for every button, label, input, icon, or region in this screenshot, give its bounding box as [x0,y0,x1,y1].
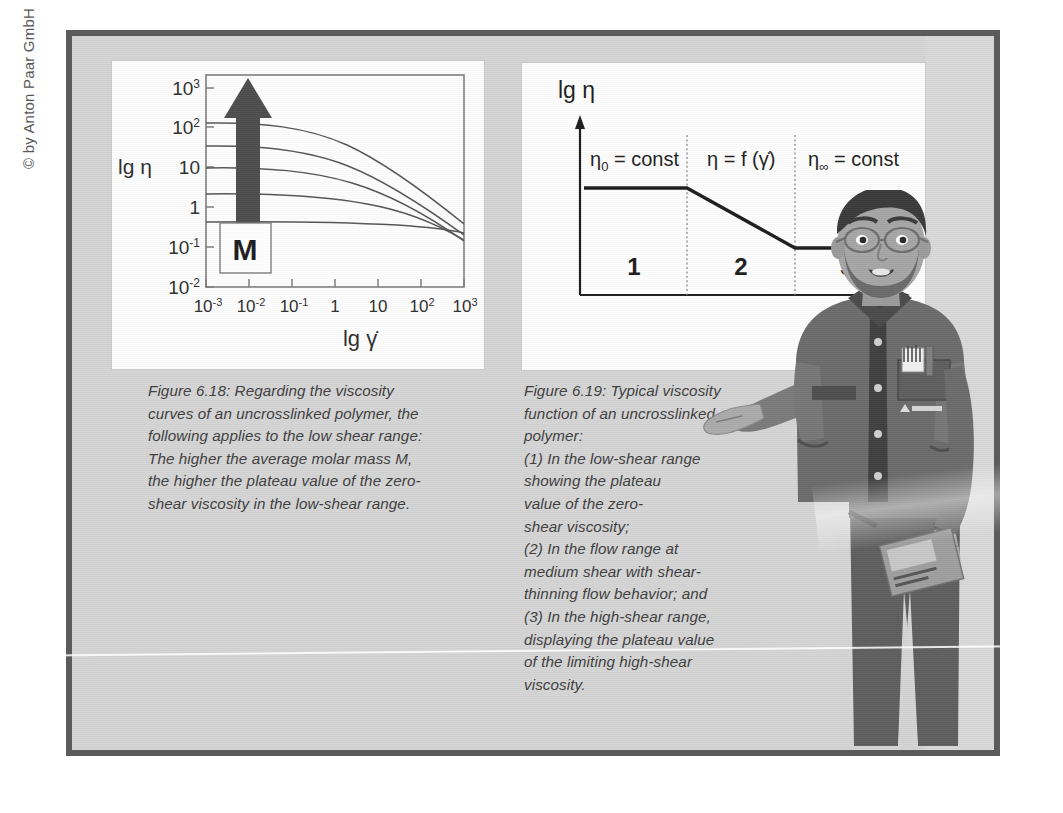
svg-text:10-3: 10-3 [194,296,223,316]
x-axis-ticks [206,279,464,287]
svg-text:10-2: 10-2 [237,296,266,316]
x-tick-labels: 10-3 10-2 10-1 1 10 102 103 [194,296,478,316]
figure-6-18-chart-card: M 103 102 10 1 10-1 10-2 lg η 10-3 10-2 [112,61,484,369]
svg-text:1: 1 [330,297,339,316]
caption-line: The higher the average molar mass M, [148,448,488,471]
svg-text:102: 102 [172,116,200,138]
work-shirt [794,290,966,502]
svg-text:10: 10 [369,297,388,316]
caption-line: following applies to the low shear range… [148,425,488,448]
y-axis-title: lg η [118,155,152,178]
svg-text:103: 103 [172,77,200,99]
svg-text:10-1: 10-1 [280,296,309,316]
head [831,190,931,298]
svg-text:10-2: 10-2 [168,276,200,298]
x-axis-title: lg γ̇ [343,326,378,351]
region-formulas: η0 = const η = f (γ̇) η∞ = const [590,148,899,174]
y-axis [575,115,585,295]
y-axis-ticks [206,88,214,287]
copyright-notice: © by Anton Paar GmbH [20,0,37,179]
name-badge [812,386,856,400]
figure-6-18-caption: Figure 6.18: Regarding the viscosity cur… [148,380,488,516]
region-formula-3: η∞ = const [808,148,899,174]
svg-text:10-1: 10-1 [168,236,200,258]
molar-mass-label-box: M [220,223,271,273]
region-number-1: 1 [627,253,640,280]
caption-line: the higher the plateau value of the zero… [148,470,488,493]
region-formula-1: η0 = const [590,148,679,174]
molar-mass-label: M [233,233,258,266]
anton-paar-technician-illustration [672,190,1002,750]
caption-line: shear viscosity in the low-shear range. [148,493,488,516]
molar-mass-arrow-icon [224,78,272,229]
caption-line: curves of an uncrosslinked polymer, the [148,403,488,426]
svg-text:10: 10 [179,157,200,178]
svg-text:103: 103 [452,296,477,316]
viscosity-curves-chart: M 103 102 10 1 10-1 10-2 lg η 10-3 10-2 [112,61,484,369]
svg-text:102: 102 [409,296,434,316]
svg-text:1: 1 [189,197,200,218]
caption-line: Figure 6.18: Regarding the viscosity [148,380,488,403]
y-axis-title: lg η [558,77,595,103]
y-tick-labels: 103 102 10 1 10-1 10-2 [168,77,200,298]
figure-frame: M 103 102 10 1 10-1 10-2 lg η 10-3 10-2 [66,30,1000,756]
region-formula-2: η = f (γ̇) [707,148,775,170]
scanned-page: © by Anton Paar GmbH [0,0,1063,813]
